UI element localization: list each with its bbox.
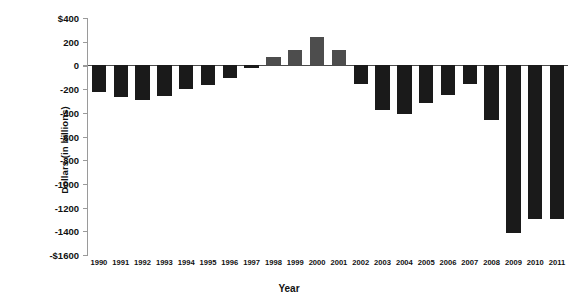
y-tick-mark — [83, 160, 89, 161]
bar-2002 — [354, 65, 368, 84]
bar-1992 — [135, 65, 149, 99]
x-tick-label-2009: 2009 — [505, 258, 522, 267]
x-tick-label-1990: 1990 — [90, 258, 107, 267]
y-tick-label: -1000 — [55, 178, 79, 189]
x-tick-label-1994: 1994 — [178, 258, 195, 267]
bar-2007 — [463, 65, 477, 84]
x-tick-label-1999: 1999 — [287, 258, 304, 267]
x-tick-label-2006: 2006 — [440, 258, 457, 267]
y-tick-mark — [83, 184, 89, 185]
bar-1999 — [288, 50, 302, 65]
bar-2004 — [397, 65, 411, 114]
x-tick-label-2003: 2003 — [374, 258, 391, 267]
x-tick-label-2001: 2001 — [330, 258, 347, 267]
x-tick-label-1992: 1992 — [134, 258, 151, 267]
y-tick-label: -400 — [60, 107, 79, 118]
bar-2009 — [506, 65, 520, 232]
bar-2001 — [332, 50, 346, 65]
y-tick-label: -1400 — [55, 226, 79, 237]
x-axis-title: Year — [0, 283, 578, 294]
y-tick-label: -$1600 — [49, 250, 79, 261]
bar-2010 — [528, 65, 542, 218]
y-tick-mark — [83, 137, 89, 138]
x-tick-label-1996: 1996 — [221, 258, 238, 267]
x-tick-label-2005: 2005 — [418, 258, 435, 267]
deficit-bar-chart: Dollars (in billions) $4002000-200-400-6… — [0, 0, 578, 300]
bar-2000 — [310, 37, 324, 65]
x-tick-label-1995: 1995 — [200, 258, 217, 267]
y-tick-label: 0 — [74, 60, 79, 71]
bar-1996 — [223, 65, 237, 78]
x-tick-label-1997: 1997 — [243, 258, 260, 267]
bar-1993 — [157, 65, 171, 95]
bar-2003 — [375, 65, 389, 110]
plot-area: $4002000-200-400-600-800-1000-1200-1400-… — [88, 18, 568, 255]
x-tick-label-1993: 1993 — [156, 258, 173, 267]
y-tick-mark — [83, 18, 89, 19]
bar-2006 — [441, 65, 455, 94]
bar-1997 — [244, 65, 258, 68]
bar-1994 — [179, 65, 193, 89]
y-tick-label: -1200 — [55, 202, 79, 213]
y-tick-mark — [83, 42, 89, 43]
x-tick-label-2010: 2010 — [527, 258, 544, 267]
y-tick-label: -800 — [60, 155, 79, 166]
x-tick-label-2002: 2002 — [352, 258, 369, 267]
x-tick-label-2011: 2011 — [549, 258, 565, 267]
y-tick-mark — [83, 89, 89, 90]
y-tick-mark — [83, 113, 89, 114]
bar-1990 — [92, 65, 106, 91]
bar-1995 — [201, 65, 215, 84]
x-tick-label-2008: 2008 — [483, 258, 500, 267]
y-tick-label: -600 — [60, 131, 79, 142]
bar-2005 — [419, 65, 433, 103]
y-axis-title: Dollars (in billions) — [59, 50, 70, 250]
bar-2008 — [484, 65, 498, 119]
x-tick-label-1998: 1998 — [265, 258, 282, 267]
bar-2011 — [550, 65, 564, 219]
y-tick-mark — [83, 208, 89, 209]
y-tick-mark — [83, 255, 89, 256]
bar-1991 — [114, 65, 128, 97]
bar-1998 — [266, 57, 280, 65]
y-tick-mark — [83, 65, 89, 66]
x-tick-label-2000: 2000 — [309, 258, 326, 267]
x-tick-label-1991: 1991 — [112, 258, 129, 267]
y-tick-label: 200 — [63, 36, 79, 47]
x-tick-label-2004: 2004 — [396, 258, 413, 267]
y-tick-label: $400 — [58, 13, 79, 24]
y-tick-mark — [83, 231, 89, 232]
y-tick-label: -200 — [60, 84, 79, 95]
x-tick-label-2007: 2007 — [461, 258, 478, 267]
